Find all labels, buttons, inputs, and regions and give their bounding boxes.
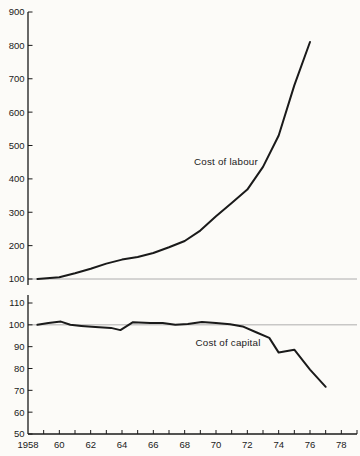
cost-of-capital-line — [37, 322, 325, 387]
labour-y-tick-label: 100 — [9, 273, 25, 284]
capital-y-tick-label: 90 — [14, 341, 25, 352]
x-tick-label: 74 — [273, 439, 284, 450]
labour-y-tick-label: 800 — [9, 40, 25, 51]
capital-y-tick-label: 60 — [14, 407, 25, 418]
labour-y-tick-label: 400 — [9, 173, 25, 184]
capital-y-tick-label: 100 — [9, 319, 25, 330]
x-tick-label: 78 — [336, 439, 347, 450]
cost-of-labour-label: Cost of labour — [194, 156, 258, 167]
x-tick-label: 1958 — [17, 439, 38, 450]
x-tick-label: 76 — [305, 439, 316, 450]
labour-y-tick-label: 200 — [9, 240, 25, 251]
labour-y-tick-label: 500 — [9, 140, 25, 151]
x-tick-label: 68 — [179, 439, 190, 450]
chart-generated-layers: 1002003004005006007008009005060708090100… — [9, 6, 357, 449]
capital-y-tick-label: 80 — [14, 363, 25, 374]
x-tick-label: 62 — [85, 439, 96, 450]
x-tick-label: 60 — [54, 439, 65, 450]
cost-of-capital-label: Cost of capital — [195, 337, 260, 348]
x-tick-label: 70 — [211, 439, 222, 450]
x-tick-label: 66 — [148, 439, 159, 450]
capital-y-tick-label: 110 — [9, 297, 24, 308]
x-tick-label: 72 — [242, 439, 253, 450]
chart-canvas: 1002003004005006007008009005060708090100… — [0, 0, 360, 456]
cost-of-labour-line — [37, 42, 310, 279]
labour-y-tick-label: 700 — [9, 73, 25, 84]
capital-y-tick-label: 70 — [14, 385, 25, 396]
labour-y-tick-label: 900 — [9, 6, 25, 17]
labour-y-tick-label: 600 — [9, 107, 25, 118]
x-tick-label: 64 — [117, 439, 128, 450]
chart-figure: 1002003004005006007008009005060708090100… — [0, 0, 360, 456]
labour-y-tick-label: 300 — [9, 207, 25, 218]
